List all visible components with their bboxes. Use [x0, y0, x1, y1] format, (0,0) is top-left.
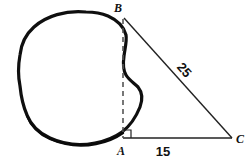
- base-measure-label: 15: [156, 144, 170, 159]
- vertex-label-b: B: [113, 1, 122, 15]
- geometry-diagram: B A C 25 15: [0, 0, 247, 167]
- segment-BC: [124, 18, 232, 138]
- diagram-canvas: B A C 25 15: [0, 0, 247, 167]
- vertex-label-c: C: [236, 132, 245, 146]
- vertex-label-a: A: [116, 144, 125, 158]
